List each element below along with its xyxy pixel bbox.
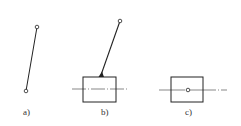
pin-joint-icon	[186, 88, 190, 92]
figure-label-a: a)	[23, 107, 30, 117]
figure-a: a)	[23, 25, 39, 117]
pin-joint-icon	[24, 89, 28, 93]
mechanism-diagram: a) b) c)	[0, 0, 241, 126]
figure-label-c: c)	[185, 107, 192, 117]
fixed-joint-icon	[99, 72, 105, 78]
figure-b: b)	[72, 19, 129, 117]
pin-joint-icon	[118, 19, 122, 23]
link-bar	[26, 27, 37, 91]
slider-block	[83, 77, 116, 102]
pin-joint-icon	[35, 25, 39, 29]
figure-label-b: b)	[101, 107, 109, 117]
figure-c: c)	[159, 77, 227, 117]
link-bar	[101, 21, 120, 75]
